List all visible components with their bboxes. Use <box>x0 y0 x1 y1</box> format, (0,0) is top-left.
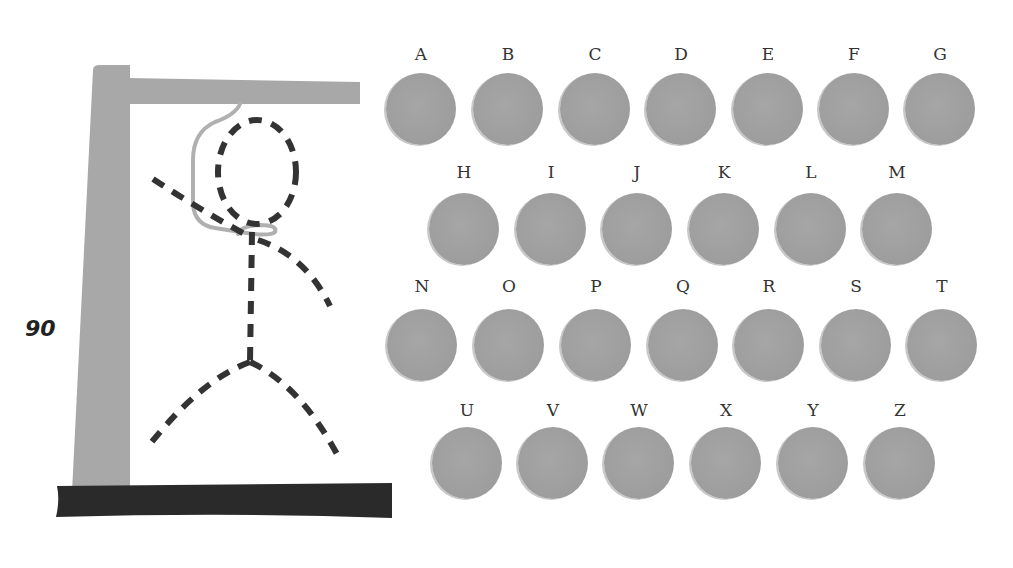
key-label-e: E <box>748 44 788 64</box>
key-label-s: S <box>836 276 876 296</box>
key-label-w: W <box>619 400 659 420</box>
letter-button-m[interactable] <box>862 193 932 265</box>
letter-button-l[interactable] <box>776 193 846 265</box>
key-label-c: C <box>575 44 615 64</box>
letter-button-v[interactable] <box>518 427 588 499</box>
letter-button-i[interactable] <box>516 193 586 265</box>
letter-button-y[interactable] <box>778 427 848 499</box>
letter-button-e[interactable] <box>733 73 803 145</box>
letter-button-t[interactable] <box>907 309 977 381</box>
letter-button-q[interactable] <box>648 309 718 381</box>
key-label-i: I <box>531 162 571 182</box>
letter-button-x[interactable] <box>691 427 761 499</box>
key-label-l: L <box>791 162 831 182</box>
figure-body <box>250 232 252 362</box>
key-label-u: U <box>447 400 487 420</box>
key-label-d: D <box>661 44 701 64</box>
key-label-h: H <box>444 162 484 182</box>
letter-button-a[interactable] <box>386 73 456 145</box>
figure-right-arm <box>258 240 330 306</box>
letter-button-o[interactable] <box>474 309 544 381</box>
key-label-g: G <box>920 44 960 64</box>
key-label-t: T <box>922 276 962 296</box>
gallows-post <box>72 65 130 492</box>
key-label-n: N <box>402 276 442 296</box>
key-label-j: J <box>617 162 657 182</box>
key-label-m: M <box>877 162 917 182</box>
letter-button-h[interactable] <box>429 193 499 265</box>
figure-left-leg <box>147 362 250 448</box>
key-label-p: P <box>576 276 616 296</box>
gallows-beam <box>128 78 360 104</box>
letter-button-j[interactable] <box>602 193 672 265</box>
key-label-v: V <box>533 400 573 420</box>
letter-button-n[interactable] <box>387 309 457 381</box>
letter-button-d[interactable] <box>646 73 716 145</box>
key-label-x: X <box>706 400 746 420</box>
letter-button-z[interactable] <box>865 427 935 499</box>
key-label-a: A <box>401 44 441 64</box>
letter-button-b[interactable] <box>473 73 543 145</box>
letter-button-u[interactable] <box>432 427 502 499</box>
figure-head <box>218 120 296 224</box>
key-label-b: B <box>488 44 528 64</box>
key-label-r: R <box>749 276 789 296</box>
letter-button-s[interactable] <box>821 309 891 381</box>
letter-button-w[interactable] <box>604 427 674 499</box>
letter-button-p[interactable] <box>561 309 631 381</box>
key-label-f: F <box>834 44 874 64</box>
letter-button-c[interactable] <box>560 73 630 145</box>
key-label-k: K <box>704 162 744 182</box>
letter-button-f[interactable] <box>819 73 889 145</box>
key-label-o: O <box>489 276 529 296</box>
key-label-z: Z <box>880 400 920 420</box>
figure-right-leg <box>250 362 338 456</box>
letter-button-g[interactable] <box>905 73 975 145</box>
key-label-y: Y <box>793 400 833 420</box>
hangman-drawing <box>0 0 420 540</box>
figure-left-arm <box>153 179 252 238</box>
letter-button-r[interactable] <box>734 309 804 381</box>
letter-button-k[interactable] <box>689 193 759 265</box>
gallows-base <box>56 483 392 518</box>
key-label-q: Q <box>663 276 703 296</box>
